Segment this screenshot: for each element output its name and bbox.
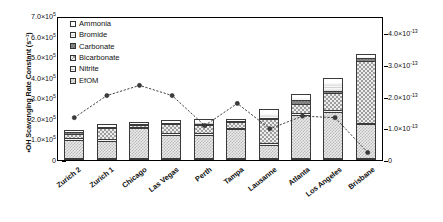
legend-label: EfOM	[79, 77, 98, 85]
bar-segment-bicarbonate	[162, 125, 180, 134]
stacked-bar	[259, 109, 279, 160]
legend-swatch-bicarbonate	[70, 55, 76, 61]
legend-label: Bicarbonate	[79, 54, 120, 62]
bar-column	[323, 18, 343, 160]
legend-swatch-ammonia	[70, 21, 76, 27]
y-tick-right-4: 4.0×10-13	[388, 30, 418, 37]
legend-item-nitrite: Nitrite	[70, 64, 162, 75]
y-tickmark-right-2	[384, 98, 388, 99]
bar-column	[291, 18, 311, 160]
bar-segment-bromide	[324, 83, 342, 92]
legend-item-ammonia: Ammonia	[70, 18, 162, 29]
y-tick-right-3: 3.0×10-13	[388, 62, 418, 69]
y-tickmark-left-0	[62, 161, 66, 162]
y-axis-right-ticks: 01.0×10-132.0×10-133.0×10-134.0×10-13	[388, 0, 436, 222]
legend-item-carbonate: Carbonate	[70, 41, 162, 52]
bar-segment-bicarbonate	[324, 94, 342, 111]
bar-column	[161, 18, 181, 160]
stacked-bar	[64, 130, 84, 160]
bar-segment-efom	[227, 130, 245, 159]
y-tick-left-1: 1.0×105	[10, 136, 56, 143]
y-tickmark-right-4	[384, 34, 388, 35]
legend-label: Bromide	[79, 31, 107, 39]
bar-column	[226, 18, 246, 160]
chart-figure: •OH Scavenging Rate Constant (s⁻¹) Rₒₕ,ᵤ…	[0, 0, 443, 222]
legend-label: Ammonia	[79, 20, 111, 28]
legend-swatch-efom	[70, 78, 76, 84]
legend-item-bromide: Bromide	[70, 29, 162, 40]
chart-legend: AmmoniaBromideCarbonateBicarbonateNitrit…	[70, 18, 162, 86]
y-tick-left-5: 5.0×105	[10, 54, 56, 61]
y-tick-left-0: 0	[10, 157, 56, 164]
bar-column	[194, 18, 214, 160]
y-tick-right-1: 1.0×10-13	[388, 125, 418, 132]
bar-segment-efom	[65, 141, 83, 159]
y-tick-left-6: 6.0×105	[10, 34, 56, 41]
legend-item-bicarbonate: Bicarbonate	[70, 52, 162, 63]
y-tick-left-3: 3.0×105	[10, 95, 56, 102]
legend-label: Carbonate	[79, 43, 114, 51]
stacked-bar	[226, 119, 246, 160]
y-axis-left-ticks: 01.0×1052.0×1053.0×1054.0×1055.0×1056.0×…	[10, 0, 56, 222]
bar-segment-bicarbonate	[260, 120, 278, 144]
y-tick-left-7: 7.0×105	[10, 13, 56, 20]
y-tick-left-2: 2.0×105	[10, 116, 56, 123]
legend-swatch-carbonate	[70, 43, 76, 49]
y-tickmark-right-3	[384, 66, 388, 67]
y-tickmark-right-1	[384, 129, 388, 130]
legend-item-efom: EfOM	[70, 75, 162, 86]
stacked-bar	[323, 78, 343, 160]
bar-segment-bicarbonate	[195, 126, 213, 134]
bar-segment-bicarbonate	[292, 105, 310, 114]
x-axis-category-labels: Zurich 2Zurich 1ChicagoLas VegasPerthTam…	[57, 163, 383, 221]
bar-segment-bicarbonate	[98, 129, 116, 140]
bar-column	[259, 18, 279, 160]
y-tick-right-2: 2.0×10-13	[388, 94, 418, 101]
y-tick-left-4: 4.0×105	[10, 75, 56, 82]
legend-swatch-bromide	[70, 32, 76, 38]
legend-label: Nitrite	[79, 65, 99, 73]
bar-segment-bicarbonate	[357, 62, 375, 124]
legend-swatch-nitrite	[70, 66, 76, 72]
